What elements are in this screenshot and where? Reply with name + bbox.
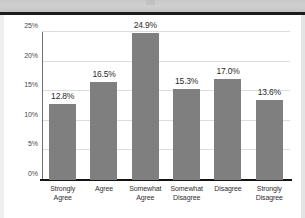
y-tick-label: 10% [24,110,38,117]
scanned-page-edge-band [0,0,305,12]
bar[interactable]: 12.8% [49,104,76,180]
y-tick-label: 25% [24,22,38,29]
x-category-label-line: Disagree [167,193,206,202]
bar-slot: 17.0% [207,32,248,180]
bar-slot: 13.6% [249,32,290,180]
bar-value-label: 15.3% [175,76,198,86]
x-category-label: Agree [83,184,124,202]
y-tick-label: 15% [24,81,38,88]
bar-slot: 16.5% [83,32,124,180]
bar-chart-figure: 0%5%10%15%20%25% 12.8%16.5%24.9%15.3%17.… [4,16,301,216]
y-tick-label: 0% [28,170,38,177]
bar[interactable]: 17.0% [214,79,241,180]
x-axis-category-labels: StronglyAgreeAgreeSomewhatAgreeSomewhatD… [42,184,290,202]
plot-area: 0%5%10%15%20%25% 12.8%16.5%24.9%15.3%17.… [42,32,290,180]
bar[interactable]: 24.9% [132,33,159,180]
x-category-label-line: Somewhat [167,184,206,193]
x-category-label-line: Disagree [208,184,247,193]
bar-slot: 12.8% [42,32,83,180]
x-category-label-line: Strongly [43,184,82,193]
x-category-label: StronglyAgree [42,184,83,202]
x-category-label-line: Strongly [250,184,289,193]
bars-group: 12.8%16.5%24.9%15.3%17.0%13.6% [42,32,290,180]
bar-value-label: 13.6% [258,87,281,97]
y-tick-label: 5% [28,140,38,147]
x-category-label-line: Agree [84,184,123,193]
bar[interactable]: 13.6% [256,100,283,181]
scan-margin-right [301,15,305,218]
bar[interactable]: 15.3% [173,89,200,180]
x-category-label-line: Agree [43,193,82,202]
horizontal-rule-divider [0,12,305,15]
bar-value-label: 12.8% [51,91,74,101]
x-category-label: StronglyDisagree [249,184,290,202]
bar[interactable]: 16.5% [90,82,117,180]
x-category-label: SomewhatDisagree [166,184,207,202]
x-category-label: Disagree [207,184,248,202]
screenshot-page: 0%5%10%15%20%25% 12.8%16.5%24.9%15.3%17.… [0,0,305,218]
bar-slot: 24.9% [125,32,166,180]
x-category-label-line: Disagree [250,193,289,202]
x-category-label-line: Agree [126,193,165,202]
x-category-label: SomewhatAgree [125,184,166,202]
y-tick-label: 20% [24,51,38,58]
bar-value-label: 24.9% [134,20,157,30]
scan-smudge-mark [146,0,155,5]
x-category-label-line: Somewhat [126,184,165,193]
bar-slot: 15.3% [166,32,207,180]
bar-value-label: 16.5% [92,69,115,79]
bar-value-label: 17.0% [216,66,239,76]
